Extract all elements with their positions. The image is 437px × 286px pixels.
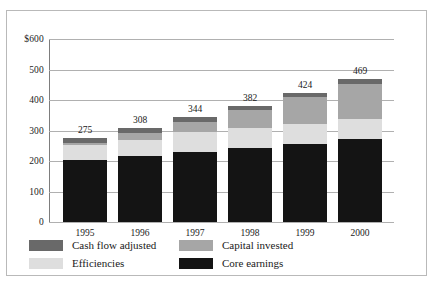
stacked-bar[interactable] [283, 93, 327, 222]
x-tick-label-1998: 1998 [241, 228, 260, 238]
bar-segment-core-earnings[interactable] [228, 148, 272, 222]
bar-segment-efficiencies[interactable] [283, 124, 327, 144]
bar-group-1997: 344 1997 [173, 39, 217, 222]
bar-segment-capital-invested[interactable] [228, 110, 272, 128]
bar-segment-capital-invested[interactable] [118, 133, 162, 140]
legend-swatch-icon [29, 258, 63, 269]
bar-total-label: 275 [78, 125, 92, 135]
legend-label: Capital invested [222, 239, 293, 251]
y-tick-label-100: 100 [29, 187, 44, 197]
chart-figure: $600 500 400 300 200 100 0 275 [6, 10, 427, 276]
stacked-bar[interactable] [338, 79, 382, 222]
bar-segment-core-earnings[interactable] [338, 139, 382, 222]
bar-segment-efficiencies[interactable] [173, 132, 217, 152]
bar-group-1999: 424 1999 [283, 39, 327, 222]
stacked-bar[interactable] [173, 117, 217, 222]
bar-segment-efficiencies[interactable] [63, 145, 107, 160]
bar-segment-core-earnings[interactable] [283, 144, 327, 222]
bar-segment-core-earnings[interactable] [173, 152, 217, 222]
stacked-bar[interactable] [63, 138, 107, 222]
legend-item-capital-invested[interactable]: Capital invested [179, 239, 293, 251]
bar-total-label: 382 [243, 93, 257, 103]
chart-legend: Cash flow adjusted Capital invested Effi… [29, 239, 359, 275]
legend-row-2: Efficiencies Core earnings [29, 257, 359, 269]
x-tick-label-1995: 1995 [76, 228, 95, 238]
bar-total-label: 469 [353, 66, 367, 76]
bar-segment-core-earnings[interactable] [63, 160, 107, 222]
y-tick-label-0: 0 [39, 217, 44, 227]
legend-label: Efficiencies [72, 257, 124, 269]
bar-segment-efficiencies[interactable] [118, 140, 162, 156]
y-tick-label-600: $600 [24, 34, 44, 44]
y-tick-label-300: 300 [29, 126, 44, 136]
bar-segment-efficiencies[interactable] [228, 128, 272, 148]
bar-group-1996: 308 1996 [118, 39, 162, 222]
bar-total-label: 344 [188, 104, 202, 114]
bar-group-1998: 382 1998 [228, 39, 272, 222]
legend-swatch-icon [179, 258, 213, 269]
stacked-bar[interactable] [228, 106, 272, 222]
bar-segment-core-earnings[interactable] [118, 156, 162, 222]
legend-swatch-icon [29, 240, 63, 251]
bar-group-2000: 469 2000 [338, 39, 382, 222]
bar-total-label: 424 [298, 80, 312, 90]
legend-label: Core earnings [222, 257, 283, 269]
gridline-0: 0 [49, 222, 394, 223]
bar-segment-capital-invested[interactable] [338, 84, 382, 118]
plot-area: $600 500 400 300 200 100 0 275 [49, 39, 394, 222]
legend-item-cash-flow-adjusted[interactable]: Cash flow adjusted [29, 239, 179, 251]
legend-row-1: Cash flow adjusted Capital invested [29, 239, 359, 251]
x-tick-label-1997: 1997 [186, 228, 205, 238]
legend-item-efficiencies[interactable]: Efficiencies [29, 257, 179, 269]
bar-segment-efficiencies[interactable] [338, 119, 382, 139]
y-tick-label-400: 400 [29, 95, 44, 105]
bar-total-label: 308 [133, 115, 147, 125]
legend-swatch-icon [179, 240, 213, 251]
bar-group-1995: 275 1995 [63, 39, 107, 222]
x-tick-label-2000: 2000 [351, 228, 370, 238]
x-tick-label-1999: 1999 [296, 228, 315, 238]
legend-label: Cash flow adjusted [72, 239, 156, 251]
stacked-bar[interactable] [118, 128, 162, 222]
y-tick-label-500: 500 [29, 65, 44, 75]
bar-segment-capital-invested[interactable] [283, 97, 327, 124]
y-tick-label-200: 200 [29, 156, 44, 166]
bar-segment-capital-invested[interactable] [173, 122, 217, 132]
x-tick-label-1996: 1996 [131, 228, 150, 238]
legend-item-core-earnings[interactable]: Core earnings [179, 257, 283, 269]
